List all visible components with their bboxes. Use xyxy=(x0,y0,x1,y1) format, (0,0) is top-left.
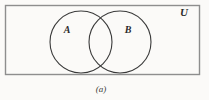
set-a-circle xyxy=(50,11,112,73)
venn-diagram-figure: U A B (a) xyxy=(0,0,209,100)
figure-caption: (a) xyxy=(96,84,107,94)
venn-diagram-canvas: U A B (a) xyxy=(0,0,209,100)
set-b-circle xyxy=(89,11,151,73)
set-b-label: B xyxy=(124,24,132,35)
universe-label: U xyxy=(180,6,189,18)
set-a-label: A xyxy=(63,24,71,35)
